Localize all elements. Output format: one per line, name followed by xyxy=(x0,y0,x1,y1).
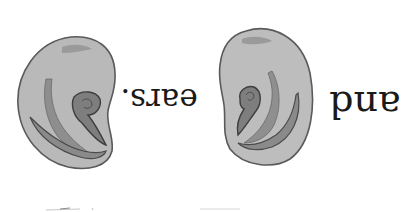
book-page: ears. and xyxy=(0,0,410,212)
right-ear-illustration xyxy=(216,25,316,167)
word-ears: ears. xyxy=(114,84,204,115)
word-and: and xyxy=(328,86,402,124)
faint-print-marks xyxy=(40,200,260,212)
left-ear-illustration xyxy=(16,33,116,171)
